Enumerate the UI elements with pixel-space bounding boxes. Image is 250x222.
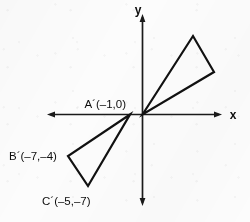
y-axis-label: y [135, 3, 142, 17]
label-b-prime: B´(–7,–4) [9, 150, 57, 162]
y-axis-arrow-down [140, 198, 146, 206]
coordinate-plane-figure: y x A´(–1,0) B´(–7,–4) C´(–5,–7) [0, 0, 250, 222]
coordinate-plot: y x A´(–1,0) B´(–7,–4) C´(–5,–7) [0, 0, 250, 222]
x-axis-label: x [230, 108, 237, 122]
label-a-prime: A´(–1,0) [84, 98, 126, 110]
label-c-prime: C´(–5,–7) [42, 195, 91, 207]
x-axis-arrow-left [47, 112, 55, 118]
triangle-image-A-prime-B-prime-C-prime [68, 115, 130, 187]
x-axis-arrow-right [214, 112, 222, 118]
triangle-preimage-ABC [143, 36, 215, 115]
